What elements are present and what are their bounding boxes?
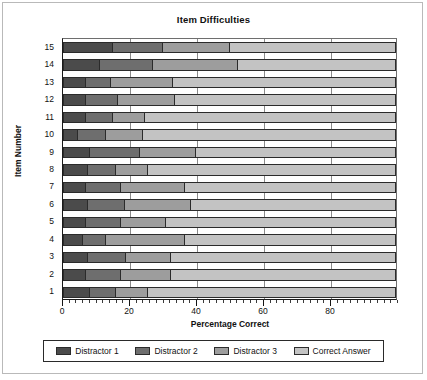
- bar-segment-ca[interactable]: [145, 112, 396, 124]
- bar-segment-d2[interactable]: [90, 147, 140, 159]
- bar-segment-d3[interactable]: [163, 42, 230, 54]
- bar-segment-d1[interactable]: [63, 182, 86, 194]
- bar-segment-d1[interactable]: [63, 234, 83, 246]
- bar-segment-d3[interactable]: [153, 59, 238, 71]
- bar-segment-d2[interactable]: [86, 217, 121, 229]
- bar-segment-d2[interactable]: [88, 164, 116, 176]
- bar-segment-d1[interactable]: [63, 199, 88, 211]
- bar-segment-ca[interactable]: [238, 59, 396, 71]
- bar-row[interactable]: [63, 77, 396, 89]
- bar-row[interactable]: [63, 287, 396, 299]
- bar-segment-ca[interactable]: [175, 94, 396, 106]
- bar-segment-d1[interactable]: [63, 217, 86, 229]
- bar-row[interactable]: [63, 147, 396, 159]
- bar-segment-d1[interactable]: [63, 252, 88, 264]
- bar-segment-ca[interactable]: [143, 129, 396, 141]
- x-minor-tick: [377, 300, 378, 303]
- bar-segment-d3[interactable]: [125, 199, 192, 211]
- bar-segment-ca[interactable]: [171, 252, 396, 264]
- bar-segment-d2[interactable]: [90, 287, 117, 299]
- bar-row[interactable]: [63, 199, 396, 211]
- bar-segment-d3[interactable]: [118, 94, 175, 106]
- bar-segment-ca[interactable]: [171, 269, 396, 281]
- bar-segment-d1[interactable]: [63, 164, 88, 176]
- bar-segment-d2[interactable]: [86, 112, 113, 124]
- bar-segment-ca[interactable]: [148, 164, 396, 176]
- bar-row[interactable]: [63, 164, 396, 176]
- bar-segment-d1[interactable]: [63, 77, 86, 89]
- bar-segment-d1[interactable]: [63, 112, 86, 124]
- bar-segment-ca[interactable]: [185, 182, 396, 194]
- bar-segment-d1[interactable]: [63, 287, 90, 299]
- bar-segment-d1[interactable]: [63, 42, 113, 54]
- legend-item-d1[interactable]: Distractor 1: [56, 346, 118, 356]
- bar-row[interactable]: [63, 252, 396, 264]
- y-tick-label: 3: [49, 251, 54, 261]
- x-axis-title: Percentage Correct: [62, 319, 398, 329]
- bar-row[interactable]: [63, 269, 396, 281]
- bar-segment-d3[interactable]: [116, 287, 148, 299]
- x-minor-tick: [256, 300, 257, 303]
- bar-segment-d2[interactable]: [88, 199, 125, 211]
- bar-segment-d2[interactable]: [78, 129, 106, 141]
- legend-item-ca[interactable]: Correct Answer: [294, 346, 371, 356]
- bar-row[interactable]: [63, 94, 396, 106]
- bar-segment-ca[interactable]: [196, 147, 396, 159]
- bar-segment-ca[interactable]: [185, 234, 396, 246]
- x-tick-label: 20: [124, 306, 133, 316]
- bar-segment-d1[interactable]: [63, 59, 100, 71]
- bar-row[interactable]: [63, 234, 396, 246]
- bar-segment-d2[interactable]: [86, 94, 118, 106]
- x-major-tick: [263, 300, 264, 306]
- y-tick-label: 5: [49, 216, 54, 226]
- bar-segment-d2[interactable]: [113, 42, 163, 54]
- bar-segment-d2[interactable]: [86, 182, 121, 194]
- legend-item-d3[interactable]: Distractor 3: [214, 346, 276, 356]
- bar-segment-d1[interactable]: [63, 129, 78, 141]
- bar-row[interactable]: [63, 59, 396, 71]
- bar-segment-d3[interactable]: [106, 234, 184, 246]
- bar-segment-d2[interactable]: [86, 269, 121, 281]
- bar-segment-d3[interactable]: [106, 129, 143, 141]
- bar-segment-d2[interactable]: [88, 252, 126, 264]
- bar-segment-d3[interactable]: [140, 147, 197, 159]
- bar-segment-d3[interactable]: [111, 77, 173, 89]
- bar-segment-d2[interactable]: [86, 77, 111, 89]
- bar-row[interactable]: [63, 112, 396, 124]
- bar-segment-ca[interactable]: [191, 199, 396, 211]
- bar-segment-d3[interactable]: [121, 217, 166, 229]
- bar-segment-d3[interactable]: [116, 164, 148, 176]
- bar-row[interactable]: [63, 182, 396, 194]
- bar-segment-d1[interactable]: [63, 147, 90, 159]
- legend-label: Distractor 2: [154, 346, 197, 356]
- bar-segment-d1[interactable]: [63, 269, 86, 281]
- x-minor-tick: [136, 300, 137, 303]
- x-minor-tick: [317, 300, 318, 303]
- bar-segment-d3[interactable]: [121, 182, 184, 194]
- bar-segment-d2[interactable]: [83, 234, 106, 246]
- x-minor-tick: [109, 300, 110, 303]
- legend-item-d2[interactable]: Distractor 2: [135, 346, 197, 356]
- bar-segment-d3[interactable]: [113, 112, 145, 124]
- x-minor-tick: [370, 300, 371, 303]
- bar-segment-d3[interactable]: [121, 269, 171, 281]
- x-minor-tick: [176, 300, 177, 303]
- bar-segment-ca[interactable]: [173, 77, 396, 89]
- x-minor-tick: [283, 300, 284, 303]
- bar-segment-d1[interactable]: [63, 94, 86, 106]
- x-major-tick: [330, 300, 331, 306]
- bar-segment-d2[interactable]: [100, 59, 153, 71]
- bar-segment-ca[interactable]: [230, 42, 396, 54]
- bar-segment-ca[interactable]: [148, 287, 396, 299]
- bar-segment-ca[interactable]: [166, 217, 396, 229]
- x-minor-tick: [163, 300, 164, 303]
- bar-row[interactable]: [63, 129, 396, 141]
- x-minor-tick: [96, 300, 97, 303]
- x-minor-tick: [223, 300, 224, 303]
- bar-row[interactable]: [63, 42, 396, 54]
- x-minor-tick: [357, 300, 358, 303]
- x-minor-tick: [116, 300, 117, 303]
- x-minor-tick: [189, 300, 190, 303]
- bar-row[interactable]: [63, 217, 396, 229]
- bar-segment-d3[interactable]: [126, 252, 171, 264]
